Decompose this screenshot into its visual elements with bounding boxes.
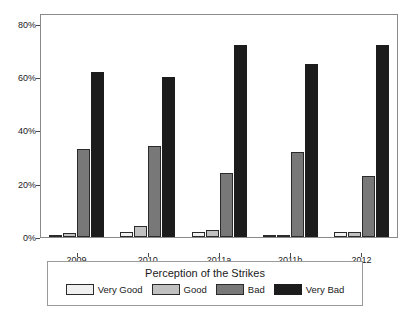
x-axis-tick-mark — [148, 253, 149, 257]
bar — [305, 64, 318, 237]
y-axis-tick-label: 40% — [18, 126, 36, 136]
bar-chart-figure: 0%20%40%60%80% 200920102011a2011b2012 Pe… — [0, 0, 409, 316]
legend-swatch — [216, 284, 244, 295]
legend-swatch — [66, 284, 94, 295]
plot-region: 0%20%40%60%80% 200920102011a2011b2012 — [40, 14, 398, 238]
x-axis-tick-mark — [361, 253, 362, 257]
bar-group — [41, 15, 112, 237]
x-axis-tick-mark — [290, 253, 291, 257]
bar — [49, 235, 62, 237]
bar — [376, 45, 389, 237]
legend-label: Bad — [248, 284, 265, 295]
y-axis-tick-mark — [36, 78, 40, 79]
bar — [348, 232, 361, 237]
bar-groups — [41, 15, 397, 237]
bar — [220, 173, 233, 237]
legend-swatch — [152, 284, 180, 295]
legend-entry: Bad — [216, 284, 265, 295]
x-axis-tick-mark — [219, 253, 220, 257]
legend-swatch — [274, 284, 302, 295]
bar-group — [255, 15, 326, 237]
y-axis-tick-mark — [36, 25, 40, 26]
bar — [206, 230, 219, 237]
legend-label: Good — [184, 284, 207, 295]
bar — [291, 152, 304, 237]
bar — [192, 232, 205, 237]
legend-entry: Very Good — [66, 284, 143, 295]
chart-legend: Perception of the Strikes Very GoodGoodB… — [47, 261, 363, 306]
x-axis-tick-mark — [77, 253, 78, 257]
bar-group — [112, 15, 183, 237]
legend-label: Very Good — [98, 284, 143, 295]
bar — [148, 146, 161, 237]
bar — [162, 77, 175, 237]
legend-label: Very Bad — [306, 284, 345, 295]
bar — [362, 176, 375, 237]
y-axis-tick-label: 0% — [23, 233, 36, 243]
y-axis-tick-mark — [36, 185, 40, 186]
bar-group — [326, 15, 397, 237]
bar — [63, 233, 76, 237]
bar — [263, 235, 276, 237]
y-axis-tick-label: 80% — [18, 20, 36, 30]
y-axis-tick-label: 20% — [18, 180, 36, 190]
legend-entry: Very Bad — [274, 284, 345, 295]
bar — [334, 232, 347, 237]
legend-entry: Good — [152, 284, 207, 295]
y-axis-tick-mark — [36, 238, 40, 239]
bar — [234, 45, 247, 237]
bar-group — [183, 15, 254, 237]
bar — [120, 232, 133, 237]
legend-title: Perception of the Strikes — [48, 266, 362, 280]
bar — [277, 235, 290, 237]
legend-items: Very GoodGoodBadVery Bad — [48, 284, 362, 295]
y-axis-tick-label: 60% — [18, 73, 36, 83]
bar — [77, 149, 90, 237]
y-axis-tick-mark — [36, 131, 40, 132]
bar — [134, 226, 147, 237]
bar — [91, 72, 104, 237]
